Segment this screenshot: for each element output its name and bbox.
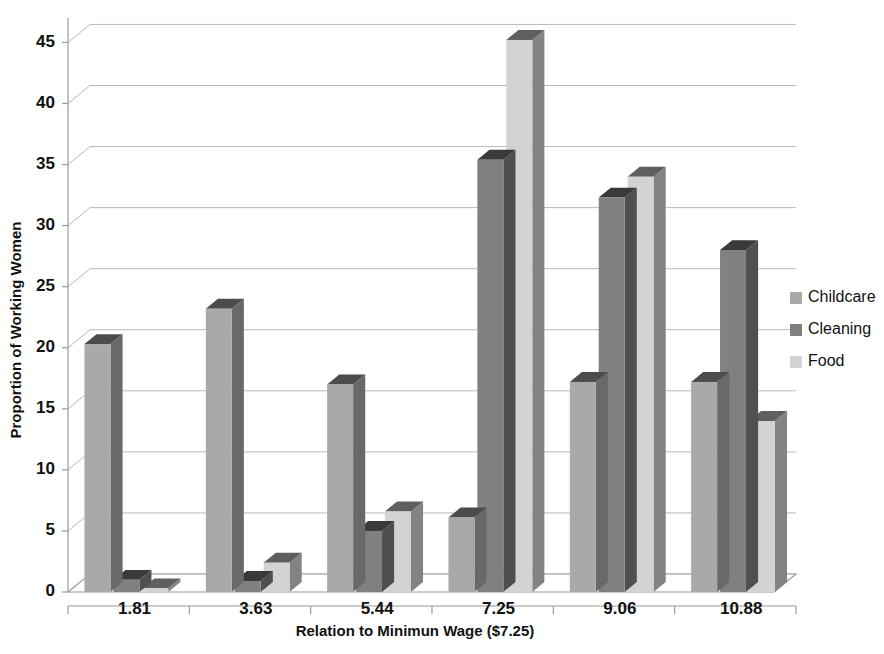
bar-side-face [353,374,365,592]
y-tick-label: 25 [36,276,55,295]
bar-side-face [503,150,515,592]
y-tick-label: 30 [36,215,55,234]
x-tick-labels: 1.813.635.447.259.0610.88 [118,599,762,618]
gridline [68,208,796,226]
bar-side-face [717,372,729,592]
bar-side-face [474,508,486,592]
y-tick-label: 15 [36,398,55,417]
y-tick-label: 5 [46,520,55,539]
legend-label-cleaning: Cleaning [808,320,871,337]
bar-front-face [570,382,596,592]
gridline [68,269,796,287]
bar-childcare-5.44 [327,374,365,592]
bar-childcare-7.25 [448,508,486,592]
legend-swatch-cleaning [790,324,802,336]
legend-label-childcare: Childcare [808,288,876,305]
bar-side-face [532,30,544,592]
y-tick-label: 45 [36,32,55,51]
legend: ChildcareCleaningFood [790,288,876,369]
y-tick-label: 10 [36,459,55,478]
x-axis [68,606,796,614]
bar-side-face [746,240,758,592]
bar-side-face [625,188,637,592]
x-tick-label: 1.81 [118,599,151,618]
bar-front-face [206,309,232,592]
bar-front-face [691,382,717,592]
bar-front-face [84,344,110,592]
chart-container: 051015202530354045 1.813.635.447.259.061… [0,0,884,654]
x-tick-label: 3.63 [239,599,272,618]
gridline [68,452,796,470]
bar-side-face [775,411,787,592]
bar-side-face [596,372,608,592]
bar-childcare-9.06 [570,372,608,592]
bar-side-face [411,501,423,592]
y-axis-title: Proportion of Working Women [7,222,24,439]
bar-childcare-1.81 [84,334,122,592]
bar-side-face [110,334,122,592]
legend-swatch-childcare [790,292,802,304]
y-axis: 051015202530354045 [36,18,68,600]
bar-childcare-10.88 [691,372,729,592]
bar-childcare-3.63 [206,299,244,592]
x-tick-label: 10.88 [720,599,763,618]
gridline [68,24,796,42]
gridline [68,513,796,531]
y-tick-label: 35 [36,154,55,173]
y-tick-label: 20 [36,337,55,356]
x-tick-label: 5.44 [361,599,395,618]
gridline [68,85,796,103]
gridline [68,330,796,348]
gridline [68,147,796,165]
bar-front-face [142,588,168,592]
gridlines [68,24,796,592]
bar-front-face [448,518,474,592]
bar-side-face [232,299,244,592]
bar-front-face [327,384,353,592]
bar-chart: 051015202530354045 1.813.635.447.259.061… [0,0,884,654]
gridline [68,391,796,409]
x-tick-label: 9.06 [603,599,636,618]
x-tick-label: 7.25 [482,599,515,618]
legend-swatch-food [790,356,802,368]
bars [84,30,787,592]
y-tick-label: 0 [46,581,55,600]
legend-label-food: Food [808,352,844,369]
y-tick-label: 40 [36,93,55,112]
bar-side-face [382,521,394,592]
x-axis-title: Relation to Minimun Wage ($7.25) [296,622,535,639]
bar-side-face [654,167,666,592]
